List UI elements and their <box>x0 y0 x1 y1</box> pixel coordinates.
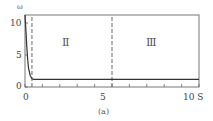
chart <box>0 0 213 121</box>
y-tick-label-10: 10 <box>10 19 21 28</box>
figure-caption: (a) <box>98 108 109 116</box>
x-tick-label-10: 10 S <box>183 93 203 102</box>
x-tick-label-5: 5 <box>100 93 106 102</box>
region-dividers <box>32 17 112 87</box>
y-tick-label-0: 0 <box>16 82 22 91</box>
region-label-ii: Ⅱ <box>62 37 69 48</box>
region-label-iii: Ⅲ <box>146 37 157 48</box>
y-tick-label-5: 5 <box>16 51 22 60</box>
y-axis-label: ω <box>17 4 23 11</box>
x-tick-label-0: 0 <box>23 93 29 102</box>
